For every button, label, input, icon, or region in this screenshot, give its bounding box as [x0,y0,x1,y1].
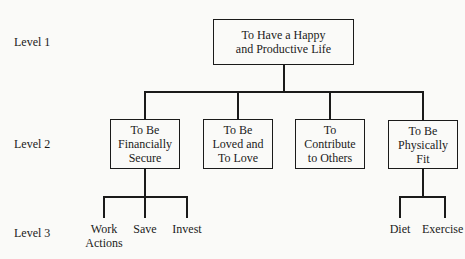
leaf-work-actions: Work Actions [80,222,128,250]
root-node: To Have a Happy and Productive Life [213,19,354,65]
level2-bus [144,91,424,93]
node-loved: To Be Loved and To Love [203,119,273,169]
level-3-label: Level 3 [14,226,50,241]
physical-stem-down [422,168,424,197]
leaf-stem-work [103,196,105,218]
leaf-stem-diet [399,196,401,218]
level-2-label: Level 2 [14,137,50,152]
stem-loved [237,91,239,119]
stem-physical [422,91,424,120]
node-label: To Contribute to Others [304,123,355,165]
leaf-stem-invest [186,196,188,218]
financial-bus [103,196,188,198]
root-stem [283,64,285,92]
financial-stem-down [144,168,146,218]
node-label: To Be Loved and To Love [213,123,264,165]
leaf-save: Save [125,222,165,236]
leaf-invest: Invest [166,222,208,236]
node-contribute: To Contribute to Others [295,119,365,169]
level-1-label: Level 1 [14,35,50,50]
root-node-label: To Have a Happy and Productive Life [236,28,331,56]
leaf-diet: Diet [382,222,418,236]
leaf-stem-exercise [444,196,446,218]
node-physically-fit: To Be Physically Fit [388,120,458,169]
leaf-exercise: Exercise [422,222,465,236]
node-label: To Be Financially Secure [118,123,172,165]
node-label: To Be Physically Fit [398,124,448,166]
physical-bus [399,196,445,198]
stem-contribute [329,91,331,119]
node-financially-secure: To Be Financially Secure [110,119,180,169]
stem-financial [144,91,146,119]
